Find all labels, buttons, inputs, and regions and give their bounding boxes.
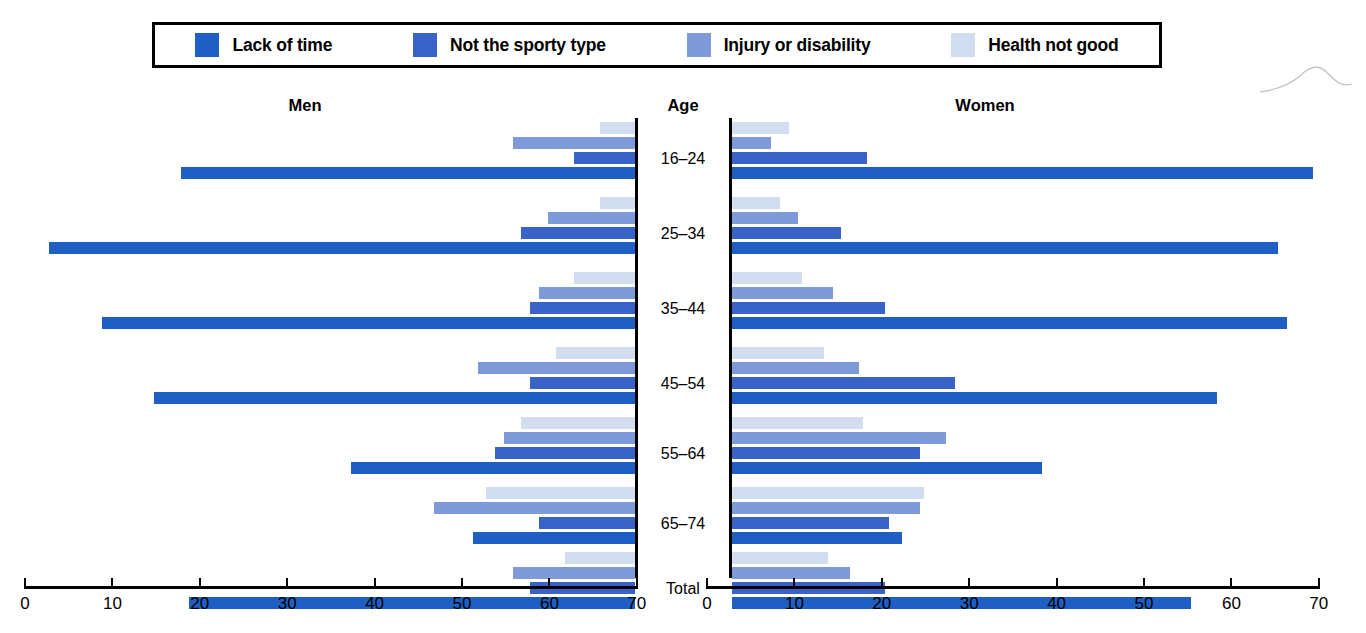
age-label-65-74: 65–74: [637, 515, 729, 533]
legend-label-not-sporty: Not the sporty type: [450, 35, 606, 56]
legend-item-lack-of-time: Lack of time: [191, 33, 336, 57]
chart-page: Lack of time Not the sporty type Injury …: [0, 0, 1366, 633]
x-tick: [1230, 578, 1232, 589]
bar-women-lack_of_time: [732, 462, 1042, 474]
chart-legend: Lack of time Not the sporty type Injury …: [152, 22, 1162, 68]
bar-men-injury_disability: [504, 432, 635, 444]
bar-women-lack_of_time: [732, 392, 1217, 404]
x-tick: [111, 578, 113, 589]
x-tick: [548, 578, 550, 589]
bar-men-injury_disability: [434, 502, 635, 514]
x-tick-label: 60: [1222, 594, 1241, 614]
x-tick: [1056, 578, 1058, 589]
bar-men-injury_disability: [539, 287, 635, 299]
bar-men-lack_of_time: [473, 532, 635, 544]
x-tick-label: 70: [627, 594, 646, 614]
x-tick: [881, 578, 883, 589]
x-tick: [706, 578, 708, 589]
x-tick: [1143, 578, 1145, 589]
bar-women-health_not_good: [732, 487, 924, 499]
legend-item-injury: Injury or disability: [683, 33, 875, 57]
bar-women-health_not_good: [732, 347, 824, 359]
bar-men-lack_of_time: [49, 242, 635, 254]
bar-men-not_sporty: [530, 377, 635, 389]
age-label-55-64: 55–64: [637, 445, 729, 463]
bar-women-health_not_good: [732, 197, 780, 209]
scribble-mark: [1258, 62, 1354, 102]
bar-women-injury_disability: [732, 502, 920, 514]
legend-swatch-health: [951, 33, 975, 57]
bar-women-lack_of_time: [732, 242, 1278, 254]
bar-men-lack_of_time: [351, 462, 635, 474]
x-axis-women: 010203040506070: [706, 578, 1366, 630]
x-tick-label: 50: [453, 594, 472, 614]
x-tick-label: 70: [1309, 594, 1328, 614]
x-tick-label: 10: [785, 594, 804, 614]
bar-men-health_not_good: [600, 122, 635, 134]
bar-men-not_sporty: [495, 447, 635, 459]
bar-women-not_sporty: [732, 227, 841, 239]
bar-women-injury_disability: [732, 287, 833, 299]
legend-swatch-injury: [687, 33, 711, 57]
bar-women-health_not_good: [732, 122, 789, 134]
bar-men-health_not_good: [521, 417, 635, 429]
x-tick: [1318, 578, 1320, 589]
x-tick-label: 40: [1047, 594, 1066, 614]
bar-women-injury_disability: [732, 362, 859, 374]
legend-item-not-sporty: Not the sporty type: [409, 33, 610, 57]
bar-men-health_not_good: [600, 197, 635, 209]
bar-women-lack_of_time: [732, 532, 902, 544]
bar-women-health_not_good: [732, 552, 828, 564]
bar-women-not_sporty: [732, 447, 920, 459]
x-tick-label: 40: [365, 594, 384, 614]
x-tick: [24, 578, 26, 589]
x-tick-label: 20: [872, 594, 891, 614]
x-tick: [968, 578, 970, 589]
bar-men-lack_of_time: [154, 392, 635, 404]
age-label-16-24: 16–24: [637, 150, 729, 168]
x-tick: [286, 578, 288, 589]
x-tick-label: 20: [190, 594, 209, 614]
bar-men-lack_of_time: [181, 167, 635, 179]
bar-men-not_sporty: [574, 152, 635, 164]
x-tick-label: 50: [1135, 594, 1154, 614]
bar-women-not_sporty: [732, 517, 889, 529]
bar-women-lack_of_time: [732, 167, 1313, 179]
bar-women-injury_disability: [732, 212, 798, 224]
axis-line-men: [635, 118, 638, 578]
x-tick: [374, 578, 376, 589]
legend-swatch-lack-of-time: [195, 33, 219, 57]
x-tick-label: 0: [702, 594, 711, 614]
bar-men-injury_disability: [478, 362, 635, 374]
legend-item-health: Health not good: [947, 33, 1122, 57]
x-axis-men: 706050403020100: [0, 578, 660, 630]
legend-swatch-not-sporty: [413, 33, 437, 57]
age-label-45-54: 45–54: [637, 375, 729, 393]
x-tick: [199, 578, 201, 589]
x-tick-label: 30: [278, 594, 297, 614]
column-heading-age: Age: [637, 96, 729, 115]
x-tick-label: 10: [103, 594, 122, 614]
age-label-25-34: 25–34: [637, 225, 729, 243]
bar-men-health_not_good: [486, 487, 635, 499]
legend-label-health: Health not good: [988, 35, 1118, 56]
bar-men-health_not_good: [574, 272, 635, 284]
column-heading-women: Women: [860, 96, 1110, 115]
bar-women-health_not_good: [732, 272, 802, 284]
bar-women-lack_of_time: [732, 317, 1287, 329]
bar-men-lack_of_time: [102, 317, 635, 329]
bar-women-health_not_good: [732, 417, 863, 429]
x-tick-label: 60: [540, 594, 559, 614]
bar-men-not_sporty: [539, 517, 635, 529]
plot-area: 16–2425–3435–4445–5455–6465–74Total: [0, 118, 1366, 578]
x-tick: [461, 578, 463, 589]
x-tick: [636, 578, 638, 589]
bar-women-injury_disability: [732, 137, 771, 149]
bar-men-injury_disability: [513, 137, 635, 149]
x-tick: [793, 578, 795, 589]
x-tick-label: 30: [960, 594, 979, 614]
bar-men-health_not_good: [556, 347, 635, 359]
age-label-35-44: 35–44: [637, 300, 729, 318]
bar-women-injury_disability: [732, 432, 946, 444]
legend-label-injury: Injury or disability: [724, 35, 871, 56]
